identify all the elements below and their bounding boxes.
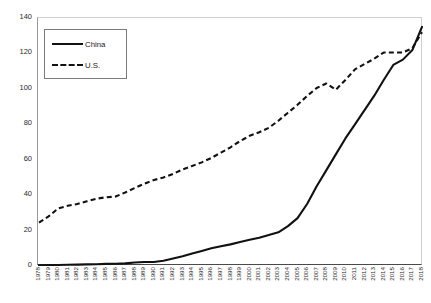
x-tick-label: 1978 bbox=[35, 267, 41, 281]
x-tick-label: 2015 bbox=[389, 267, 395, 281]
x-tick-label: 1990 bbox=[150, 267, 156, 281]
chart-legend: China U.S. bbox=[44, 29, 127, 79]
x-tick-label: 2008 bbox=[322, 267, 328, 281]
x-tick-label: 1986 bbox=[112, 267, 118, 281]
x-tick-label: 2018 bbox=[418, 267, 424, 281]
x-tick-label: 2006 bbox=[303, 267, 309, 281]
x-tick-label: 2001 bbox=[255, 267, 261, 281]
x-tick-label: 1999 bbox=[236, 267, 242, 281]
x-tick-label: 1996 bbox=[207, 267, 213, 281]
y-tick-label: 60 bbox=[4, 155, 32, 163]
x-tick-label: 1980 bbox=[54, 267, 60, 281]
x-tick-label: 2007 bbox=[313, 267, 319, 281]
y-tick-label: 0 bbox=[4, 261, 32, 269]
x-tick-label: 1981 bbox=[64, 267, 70, 281]
x-tick-label: 2014 bbox=[380, 267, 386, 281]
x-tick-label: 1985 bbox=[102, 267, 108, 281]
x-tick-label: 2012 bbox=[361, 267, 367, 281]
x-tick-label: 1998 bbox=[227, 267, 233, 281]
x-tick-label: 2005 bbox=[294, 267, 300, 281]
x-tick-label: 2002 bbox=[265, 267, 271, 281]
line-chart: 140 120 100 80 60 40 20 0 China U.S. 197… bbox=[0, 0, 431, 303]
x-tick-label: 2003 bbox=[274, 267, 280, 281]
legend-label: U.S. bbox=[85, 61, 100, 70]
x-tick-label: 1995 bbox=[198, 267, 204, 281]
x-tick-label: 1984 bbox=[92, 267, 98, 281]
x-tick-label: 1987 bbox=[121, 267, 127, 281]
y-tick-label: 80 bbox=[4, 119, 32, 127]
x-tick-label: 2016 bbox=[399, 267, 405, 281]
x-tick-label: 1983 bbox=[83, 267, 89, 281]
x-tick-label: 1982 bbox=[73, 267, 79, 281]
x-tick-label: 1994 bbox=[188, 267, 194, 281]
x-tick-label: 1979 bbox=[45, 267, 51, 281]
x-tick-label: 2011 bbox=[351, 267, 357, 280]
x-axis-labels: 1978197919801981198219831984198519861987… bbox=[37, 267, 422, 303]
y-tick-label: 40 bbox=[4, 190, 32, 198]
x-tick-label: 2009 bbox=[332, 267, 338, 281]
x-tick-label: 1989 bbox=[140, 267, 146, 281]
x-tick-label: 1992 bbox=[169, 267, 175, 281]
legend-item-china: China bbox=[45, 37, 128, 51]
y-tick-label: 140 bbox=[4, 13, 32, 21]
legend-label: China bbox=[85, 40, 105, 49]
x-tick-label: 2010 bbox=[341, 267, 347, 281]
x-tick-label: 1991 bbox=[159, 267, 165, 281]
dashed-line-key-icon bbox=[52, 60, 83, 70]
x-tick-label: 2004 bbox=[284, 267, 290, 281]
x-tick-label: 1988 bbox=[131, 267, 137, 281]
x-tick-label: 2017 bbox=[408, 267, 414, 281]
x-tick-label: 2013 bbox=[370, 267, 376, 281]
x-tick-label: 2000 bbox=[246, 267, 252, 281]
legend-item-us: U.S. bbox=[45, 58, 128, 72]
y-tick-label: 120 bbox=[4, 48, 32, 56]
y-tick-label: 20 bbox=[4, 226, 32, 234]
x-tick-label: 1993 bbox=[179, 267, 185, 281]
solid-line-key-icon bbox=[52, 39, 83, 49]
y-tick-label: 100 bbox=[4, 84, 32, 92]
x-tick-label: 1997 bbox=[217, 267, 223, 281]
